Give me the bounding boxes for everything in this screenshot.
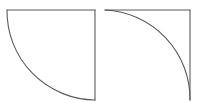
canvas-background [0, 0, 201, 111]
geometry-figure-canvas [0, 0, 201, 111]
